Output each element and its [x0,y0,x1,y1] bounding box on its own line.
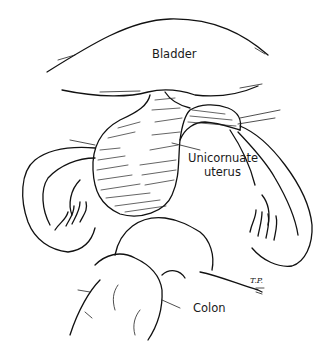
colon-label: Colon [193,302,226,315]
uterus-label-line2: uterus [204,166,241,179]
right-tube-ovary [230,110,312,266]
artist-signature: T.P. [250,276,263,285]
illustration: Bladder Unicornuate uterus Colon T.P. [0,0,332,352]
uterus-label-line1: Unicornuate [188,152,258,165]
left-tube-ovary [23,140,95,252]
bladder-label: Bladder [152,48,197,61]
colon [70,218,264,340]
